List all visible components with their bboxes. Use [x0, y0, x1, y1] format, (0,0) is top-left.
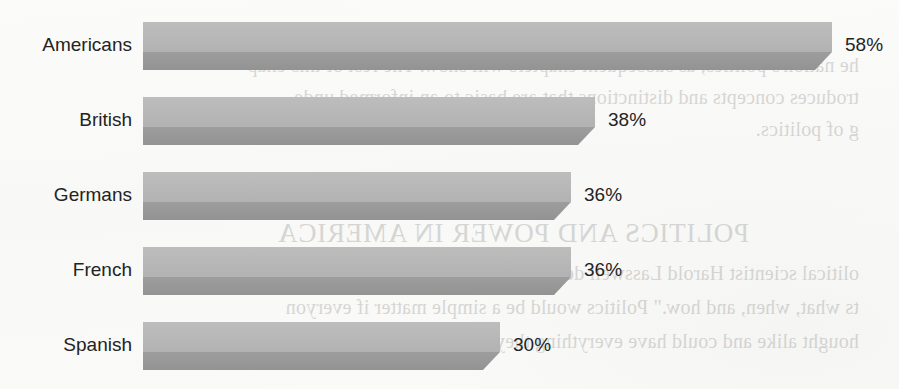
value-label: 36% — [584, 259, 622, 281]
bar — [143, 22, 832, 70]
bar — [143, 97, 595, 145]
chart-row: Spanish 30% — [0, 322, 899, 370]
value-label: 58% — [845, 34, 883, 56]
chart-row: Americans 58% — [0, 22, 899, 70]
bar-face-dark — [143, 202, 571, 220]
category-label: Spanish — [0, 334, 132, 356]
bar-face-light — [143, 97, 595, 127]
value-label: 36% — [584, 184, 622, 206]
category-label: British — [0, 109, 132, 131]
chart-row: Germans 36% — [0, 172, 899, 220]
category-label: Americans — [0, 34, 132, 56]
bar-face-dark — [143, 52, 832, 70]
bar-face-dark — [143, 352, 500, 370]
bar — [143, 322, 500, 370]
chart-row: French 36% — [0, 247, 899, 295]
category-label: Germans — [0, 184, 132, 206]
category-label: French — [0, 259, 132, 281]
bar-chart: Americans 58% British 38% Germans 36% — [0, 0, 899, 389]
bar-face-dark — [143, 277, 571, 295]
bar-face-light — [143, 322, 500, 352]
value-label: 38% — [608, 109, 646, 131]
bar — [143, 247, 571, 295]
bar — [143, 172, 571, 220]
bar-face-dark — [143, 127, 595, 145]
value-label: 30% — [513, 334, 551, 356]
chart-row: British 38% — [0, 97, 899, 145]
chart-page: s 'distinctive political beliefs are onl… — [0, 0, 899, 389]
bar-face-light — [143, 247, 571, 277]
bar-face-light — [143, 22, 832, 52]
bar-face-light — [143, 172, 571, 202]
